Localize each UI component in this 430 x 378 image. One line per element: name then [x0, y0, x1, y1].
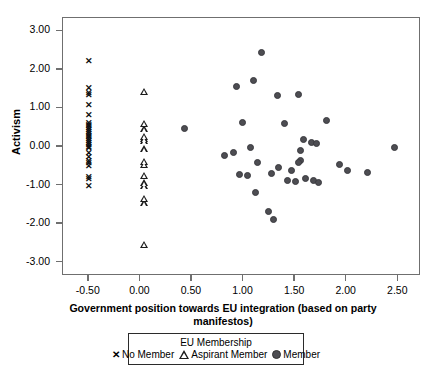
y-tick-label: -3.00	[6, 255, 50, 267]
data-point-member	[295, 91, 302, 98]
data-point-member	[247, 144, 254, 151]
x-tick-mark	[293, 275, 295, 281]
x-tick-label: -0.50	[63, 284, 113, 296]
data-point-member	[274, 92, 281, 99]
data-point-member	[297, 147, 304, 154]
y-tick-mark	[56, 222, 62, 224]
y-tick-label: -2.00	[6, 216, 50, 228]
data-point-member	[288, 167, 295, 174]
x-axis-title-line2: manifestos)	[193, 315, 252, 327]
data-point-no-member: ✕	[84, 162, 93, 171]
data-point-member	[292, 178, 299, 185]
x-tick-mark	[139, 275, 141, 281]
data-point-member	[313, 140, 320, 147]
data-point-member	[244, 172, 251, 179]
data-point-member	[295, 159, 302, 166]
data-point-member	[391, 144, 398, 151]
legend: EU Membership ✕ No Member Aspirant Membe…	[128, 333, 304, 365]
x-axis-title: Government position towards EU integrati…	[48, 302, 398, 328]
data-point-aspirant-member	[140, 145, 148, 152]
data-point-member	[315, 179, 322, 186]
legend-item-member[interactable]: Member	[272, 349, 320, 360]
data-point-member	[336, 161, 343, 168]
data-point-no-member: ✕	[84, 57, 93, 66]
x-tick-label: 1.00	[218, 284, 268, 296]
data-point-member	[221, 152, 228, 159]
data-point-member	[268, 170, 275, 177]
data-point-member	[344, 167, 351, 174]
y-tick-mark	[56, 145, 62, 147]
data-point-member	[181, 125, 188, 132]
x-tick-mark	[242, 275, 244, 281]
legend-label-member: Member	[283, 349, 320, 360]
x-tick-mark	[190, 275, 192, 281]
data-point-member	[250, 77, 257, 84]
plot-area: ✕✕✕✕✕✕✕✕✕✕✕✕✕✕✕✕✕✕✕✕✕✕✕✕✕✕✕✕✕	[62, 17, 420, 275]
data-point-member	[275, 164, 282, 171]
x-tick-mark	[397, 275, 399, 281]
data-point-member	[281, 120, 288, 127]
x-axis-title-line1: Government position towards EU integrati…	[69, 302, 376, 314]
legend-title: EU Membership	[134, 337, 298, 348]
circle-marker-icon	[272, 350, 281, 359]
data-point-aspirant-member	[140, 241, 148, 248]
data-point-no-member: ✕	[84, 101, 93, 110]
legend-label-aspirant-member: Aspirant Member	[191, 349, 267, 360]
y-tick-label: 3.00	[6, 23, 50, 35]
x-tick-label: 1.50	[269, 284, 319, 296]
triangle-marker-icon	[179, 350, 189, 359]
data-point-member	[258, 49, 265, 56]
data-point-member	[270, 216, 277, 223]
data-point-no-member: ✕	[84, 91, 93, 100]
legend-item-aspirant-member[interactable]: Aspirant Member	[179, 349, 267, 360]
data-point-member	[323, 117, 330, 124]
data-point-member	[254, 159, 261, 166]
data-point-member	[284, 177, 291, 184]
legend-label-no-member: No Member	[122, 349, 174, 360]
y-tick-mark	[56, 261, 62, 263]
data-point-no-member: ✕	[84, 182, 93, 191]
y-tick-label: -1.00	[6, 178, 50, 190]
data-point-aspirant-member	[140, 172, 148, 179]
x-tick-label: 2.00	[321, 284, 371, 296]
data-point-member	[300, 136, 307, 143]
y-axis-title: Activism	[10, 92, 22, 172]
data-point-member	[233, 83, 240, 90]
data-point-member	[236, 171, 243, 178]
data-point-member	[364, 169, 371, 176]
x-tick-label: 2.50	[372, 284, 422, 296]
y-tick-mark	[56, 30, 62, 32]
x-tick-mark	[87, 275, 89, 281]
scatter-chart: ✕✕✕✕✕✕✕✕✕✕✕✕✕✕✕✕✕✕✕✕✕✕✕✕✕✕✕✕✕ 3.002.001.…	[0, 0, 430, 378]
data-point-member	[239, 119, 246, 126]
data-point-member	[302, 175, 309, 182]
y-tick-mark	[56, 68, 62, 70]
legend-item-no-member[interactable]: ✕ No Member	[112, 349, 174, 360]
cross-marker-icon: ✕	[112, 350, 120, 360]
x-tick-label: 0.50	[166, 284, 216, 296]
y-tick-mark	[56, 184, 62, 186]
data-point-member	[230, 149, 237, 156]
data-point-member	[252, 189, 259, 196]
legend-entries: ✕ No Member Aspirant Member Member	[134, 349, 298, 360]
y-tick-label: 2.00	[6, 62, 50, 74]
data-point-aspirant-member	[140, 125, 148, 132]
data-point-aspirant-member	[140, 88, 148, 95]
x-tick-label: 0.00	[114, 284, 164, 296]
y-tick-mark	[56, 107, 62, 109]
data-point-member	[265, 208, 272, 215]
x-tick-mark	[345, 275, 347, 281]
